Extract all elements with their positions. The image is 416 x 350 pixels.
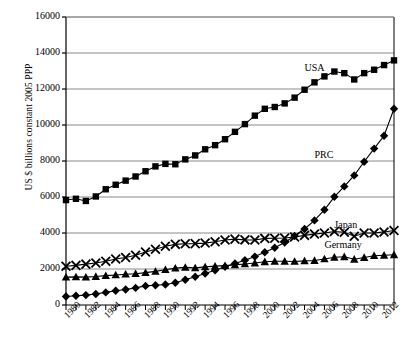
data-point-square <box>212 142 218 148</box>
data-point-diamond <box>82 291 90 299</box>
data-point-square <box>281 100 287 106</box>
data-point-square <box>73 196 79 202</box>
series-label-usa: USA <box>305 62 325 73</box>
data-point-diamond <box>271 244 279 252</box>
data-point-diamond <box>72 292 80 300</box>
data-point-triangle <box>181 263 189 271</box>
data-point-diamond <box>92 290 100 298</box>
y-tick-label: 4000 <box>14 226 60 237</box>
chart-container: US $ billions constant 2005 PPP 02000400… <box>0 0 416 350</box>
data-point-square <box>242 121 248 127</box>
chart-plot-svg <box>0 0 416 350</box>
y-tick-label: 12000 <box>14 82 60 93</box>
data-point-square <box>202 146 208 152</box>
data-point-diamond <box>151 281 159 289</box>
series-line-prc <box>66 109 394 297</box>
data-point-diamond <box>390 105 398 113</box>
data-point-square <box>301 87 307 93</box>
data-point-diamond <box>261 248 269 256</box>
data-point-square <box>391 57 397 63</box>
data-point-square <box>272 104 278 110</box>
data-point-diamond <box>141 282 149 290</box>
data-point-square <box>232 129 238 135</box>
data-point-square <box>311 79 317 85</box>
data-point-diamond <box>62 292 70 300</box>
data-point-diamond <box>191 273 199 281</box>
data-point-square <box>112 182 118 188</box>
y-tick-label: 10000 <box>14 118 60 129</box>
series-line-usa <box>66 60 394 201</box>
data-point-square <box>93 193 99 199</box>
data-point-square <box>192 152 198 158</box>
series-label-japan: Japan <box>334 219 357 230</box>
data-point-square <box>262 106 268 112</box>
data-point-square <box>381 62 387 68</box>
y-tick-label: 0 <box>14 298 60 309</box>
data-point-square <box>152 163 158 169</box>
data-point-square <box>142 168 148 174</box>
data-point-square <box>351 76 357 82</box>
series-label-prc: PRC <box>314 149 333 160</box>
data-point-square <box>83 198 89 204</box>
data-point-diamond <box>131 284 139 292</box>
y-tick-label: 16000 <box>14 10 60 21</box>
y-tick-label: 8000 <box>14 154 60 165</box>
y-tick-label: 2000 <box>14 262 60 273</box>
data-point-diamond <box>102 288 110 296</box>
data-point-square <box>63 197 69 203</box>
data-point-diamond <box>171 278 179 286</box>
data-point-square <box>252 112 258 118</box>
data-point-diamond <box>181 276 189 284</box>
data-point-diamond <box>161 280 169 288</box>
data-point-diamond <box>121 285 129 293</box>
data-point-diamond <box>360 158 368 166</box>
data-point-square <box>331 68 337 74</box>
data-point-square <box>132 173 138 179</box>
y-tick-label: 6000 <box>14 190 60 201</box>
data-point-square <box>162 161 168 167</box>
data-point-square <box>103 186 109 192</box>
data-point-square <box>361 70 367 76</box>
data-point-square <box>341 70 347 76</box>
data-point-square <box>291 94 297 100</box>
data-point-square <box>222 136 228 142</box>
data-point-diamond <box>201 269 209 277</box>
data-point-square <box>182 156 188 162</box>
data-point-diamond <box>280 238 288 246</box>
data-point-square <box>122 177 128 183</box>
data-point-diamond <box>111 287 119 295</box>
data-point-triangle <box>390 251 398 259</box>
series-label-germany: Germany <box>324 239 361 250</box>
data-point-square <box>371 67 377 73</box>
y-tick-label: 14000 <box>14 46 60 57</box>
data-point-square <box>321 73 327 79</box>
data-point-square <box>172 161 178 167</box>
data-point-triangle <box>340 253 348 261</box>
